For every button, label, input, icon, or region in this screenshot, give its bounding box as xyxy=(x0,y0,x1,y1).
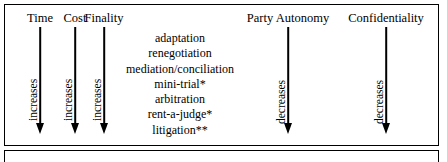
list-item: litigation** xyxy=(105,123,255,138)
list-item: mediation/conciliation xyxy=(105,62,255,77)
column-header-party-autonomy: Party Autonomy xyxy=(247,11,329,25)
column-confidentiality: Confidentiality decreases xyxy=(333,5,439,147)
direction-label-confidentiality: decreases xyxy=(373,80,385,124)
list-item: rent-a-judge* xyxy=(105,107,255,122)
column-header-confidentiality: Confidentiality xyxy=(348,11,424,25)
column-header-finality: Finality xyxy=(85,11,124,25)
direction-label-time: increases xyxy=(27,79,39,121)
direction-label-finality: increases xyxy=(91,79,103,121)
list-item: mini-trial* xyxy=(105,77,255,92)
figure-panel-continuation xyxy=(4,150,439,162)
process-list: adaptation renegotiation mediation/conci… xyxy=(105,31,255,138)
direction-label-party-autonomy: decreases xyxy=(275,80,287,124)
figure-panel: Time increases Cost increases Finality i… xyxy=(4,4,439,146)
dispute-resolution-spectrum-figure: Time increases Cost increases Finality i… xyxy=(0,0,447,162)
list-item: renegotiation xyxy=(105,46,255,61)
list-item: adaptation xyxy=(105,31,255,46)
list-item: arbitration xyxy=(105,92,255,107)
